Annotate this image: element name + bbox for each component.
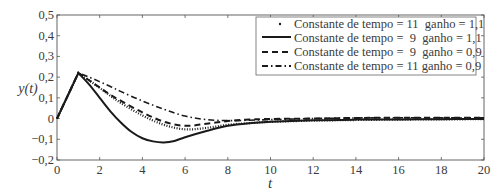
x-axis-label: t (268, 175, 273, 191)
y-axis-label: y(t) (16, 81, 38, 97)
x-tick-label: 20 (478, 163, 491, 177)
legend-label-3: Constante de tempo = 9 ganho = 0,9 (294, 45, 482, 59)
legend: Constante de tempo = 11 ganho = 1,1 Cons… (256, 17, 484, 75)
x-tick-label: 12 (307, 163, 320, 177)
x-tick-label: 6 (182, 163, 188, 177)
x-tick-label: 0 (54, 163, 60, 177)
plot-series (57, 73, 484, 142)
x-tick-label: 14 (350, 163, 363, 177)
legend-entry-1: Constante de tempo = 11 ganho = 1,1 (279, 17, 485, 31)
x-tick-label: 4 (139, 163, 146, 177)
legend-marker-dotted (279, 23, 281, 25)
step-response-chart: 02468101214161820 −0,2−0,100,10,20,30,40… (0, 0, 498, 195)
legend-label-2: Constante de tempo = 9 ganho = 1,1 (294, 31, 482, 45)
legend-entry-4: Constante de tempo = 11 ganho = 0,9 (262, 59, 481, 73)
y-tick-label: 0,4 (38, 29, 54, 43)
y-tick-label: 0,1 (38, 91, 54, 105)
x-tick-label: 2 (97, 163, 103, 177)
series-line-dashdot (57, 73, 484, 121)
legend-entry-2: Constante de tempo = 9 ganho = 1,1 (262, 31, 482, 45)
y-tick-label: −0,1 (31, 132, 54, 146)
legend-label-4: Constante de tempo = 11 ganho = 0,9 (294, 59, 481, 73)
y-tick-label: 0,5 (38, 8, 54, 22)
x-tick-label: 16 (392, 163, 405, 177)
x-tick-label: 8 (225, 163, 231, 177)
legend-label-1: Constante de tempo = 11 ganho = 1,1 (294, 17, 484, 31)
y-tick-label: 0,3 (38, 49, 54, 63)
x-tick-label: 18 (435, 163, 448, 177)
series-line-solid (57, 73, 484, 142)
y-tick-label: 0,2 (38, 70, 54, 84)
y-tick-label: −0,2 (31, 153, 54, 167)
y-tick-label: 0 (48, 112, 54, 126)
legend-entry-3: Constante de tempo = 9 ganho = 0,9 (262, 45, 482, 59)
